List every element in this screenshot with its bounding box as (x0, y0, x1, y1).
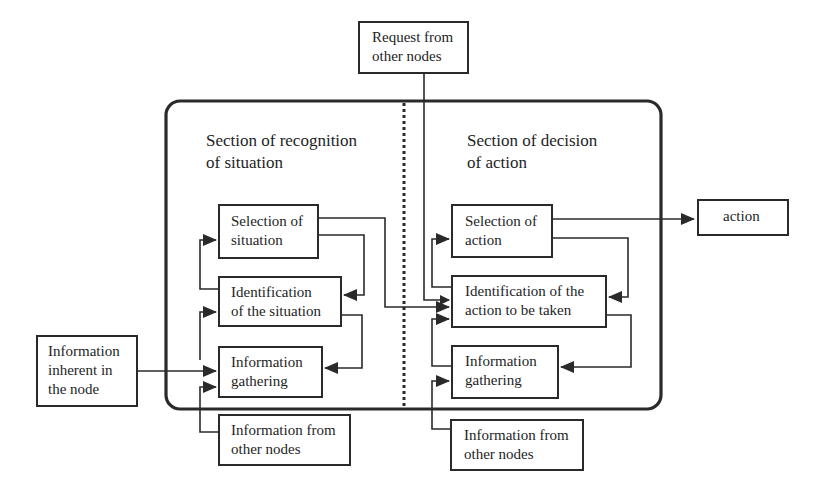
info-other-right-label: Information from other nodes (464, 426, 569, 464)
info-other-right-connector (432, 381, 451, 429)
selection-of-situation-label: Selection of situation (231, 212, 303, 250)
diagram-canvas (0, 0, 819, 498)
selection-of-action-label: Selection of action (465, 212, 537, 250)
info-other-left-label: Information from other nodes (231, 421, 336, 459)
info-inherent-label: Information inherent in the node (48, 342, 120, 399)
request-label: Request from other nodes (372, 28, 453, 66)
info-gathering-left-label: Information gathering (231, 353, 303, 391)
request-connector (424, 73, 449, 300)
identification-to-selection-connector (200, 240, 219, 289)
action-label: action (723, 207, 760, 226)
identification-to-selection-right-connector (432, 239, 452, 287)
gathering-to-identification-right-connector (432, 319, 452, 366)
gathering-to-identification-connector (200, 312, 216, 360)
info-gathering-right-label: Information gathering (465, 352, 537, 390)
decision-section-title: Section of decision of action (467, 130, 597, 174)
identification-of-action-label: Identification of the action to be taken (465, 282, 584, 320)
identification-of-situation-label: Identification of the situation (231, 283, 321, 321)
recognition-section-title: Section of recognition of situation (206, 130, 357, 174)
